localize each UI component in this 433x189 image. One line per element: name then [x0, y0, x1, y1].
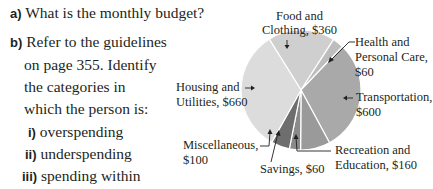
- label-recreation-education: Recreation and Education, $160: [335, 143, 417, 173]
- label-housing-utilities: Housing and Utilities, $660: [176, 80, 248, 110]
- label-food-clothing: Food and Clothing, $360: [275, 9, 337, 38]
- label-savings: Savings, $60: [260, 162, 325, 177]
- label-miscellaneous: Miscellaneous, $100: [183, 138, 258, 168]
- label-health-personal-care: Health and Personal Care, $60: [355, 35, 428, 80]
- label-transportation: Transportation, $600: [356, 90, 432, 120]
